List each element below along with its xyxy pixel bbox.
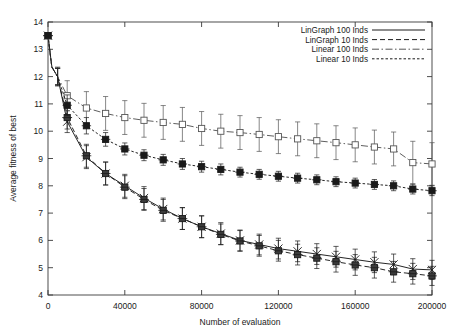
y-tick-label: 12 xyxy=(34,72,44,82)
y-tick-label: 13 xyxy=(34,44,44,54)
error-bars xyxy=(55,68,435,285)
x-tick-label: 200000 xyxy=(418,301,447,311)
y-tick-label: 4 xyxy=(38,290,43,300)
x-tick-label: 160000 xyxy=(341,301,370,311)
x-tick-label: 80000 xyxy=(190,301,214,311)
y-tick-label: 14 xyxy=(34,17,44,27)
legend-label: LinGraph 100 Inds xyxy=(301,26,368,35)
error-bars xyxy=(55,68,435,196)
legend: LinGraph 100 IndsLinGraph 10 IndsLinear … xyxy=(301,26,425,64)
series-markers xyxy=(43,33,437,279)
y-tick-label: 6 xyxy=(38,235,43,245)
legend-label: Linear 10 Inds xyxy=(316,55,368,64)
chart-container: 0400008000012000016000020000045678910111… xyxy=(0,0,459,326)
y-tick-label: 8 xyxy=(38,181,43,191)
y-tick-label: 10 xyxy=(34,126,44,136)
y-tick-label: 9 xyxy=(38,154,43,164)
legend-label: LinGraph 10 Inds xyxy=(305,36,368,45)
y-axis-title: Average fitness of best xyxy=(8,115,18,202)
x-tick-label: 0 xyxy=(46,301,51,311)
x-axis-title: Number of evaluation xyxy=(200,317,281,326)
line-chart: 0400008000012000016000020000045678910111… xyxy=(0,0,459,326)
x-tick-label: 40000 xyxy=(113,301,137,311)
series-1 xyxy=(43,33,437,286)
y-tick-label: 5 xyxy=(38,263,43,273)
error-bars xyxy=(55,68,435,279)
y-tick-label: 11 xyxy=(34,99,43,109)
x-tick-label: 120000 xyxy=(264,301,293,311)
legend-label: Linear 100 Inds xyxy=(312,45,368,54)
error-bars xyxy=(55,67,435,185)
y-tick-label: 7 xyxy=(38,208,43,218)
